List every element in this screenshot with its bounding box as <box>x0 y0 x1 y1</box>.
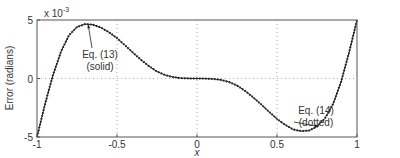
annotation-label: Eq. (14) <box>298 105 334 116</box>
y-scale-label: x 10-3 <box>44 6 69 19</box>
y-tick-label: 5 <box>27 15 33 26</box>
annotation-sublabel: (solid) <box>86 61 113 72</box>
y-tick-label: -5 <box>24 132 33 143</box>
y-axis-label: Error (radians) <box>4 46 15 110</box>
annotation-label: Eq. (13) <box>82 49 118 60</box>
x-tick-label: -1 <box>33 139 42 150</box>
x-tick-label: 0.5 <box>270 139 284 150</box>
x-axis-label: x <box>194 147 201 158</box>
error-chart: -1-0.500.51-505 x 10-3 x Error (radians)… <box>0 0 400 158</box>
x-tick-label: -0.5 <box>108 139 126 150</box>
y-tick-label: 0 <box>27 74 33 85</box>
x-tick-label: 1 <box>354 139 360 150</box>
